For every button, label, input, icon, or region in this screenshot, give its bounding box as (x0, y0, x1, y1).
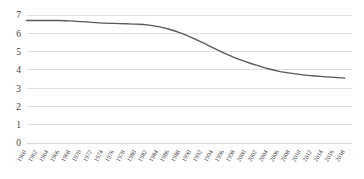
x-axis-tick-label: 1988 (169, 149, 181, 163)
x-axis-tick-label: 1982 (136, 149, 148, 163)
y-axis-tick-label: 5 (16, 47, 21, 57)
x-axis-tick-label: 2014 (312, 149, 324, 163)
x-axis-tick-label: 2018 (334, 149, 346, 163)
x-axis-tick-label: 1986 (158, 149, 170, 163)
x-axis-tick-label: 1976 (103, 149, 115, 163)
data-series-group (27, 20, 346, 78)
x-axis-tick-labels: 1960196219641966196819701972197419761978… (15, 149, 346, 163)
x-axis-tick-label: 1974 (92, 149, 104, 163)
x-axis-tick-label: 2006 (268, 149, 280, 163)
series-line (27, 20, 346, 78)
y-axis-tick-label: 1 (16, 120, 21, 130)
gridlines-group (27, 15, 353, 143)
y-axis-tick-label: 3 (16, 84, 21, 94)
x-axis-tick-label: 2000 (235, 149, 247, 163)
y-axis-tick-label: 0 (16, 138, 21, 148)
x-axis-tick-label: 2016 (323, 149, 335, 163)
x-axis-tick-label: 1964 (37, 149, 49, 163)
x-axis-tick-label: 1962 (26, 149, 38, 163)
y-axis-tick-label: 6 (16, 29, 21, 39)
x-axis-tick-label: 1968 (59, 149, 71, 163)
x-axis-tick-label: 1990 (180, 149, 192, 163)
x-axis-tick-label: 1980 (125, 149, 137, 163)
x-axis-tick-label: 2002 (246, 149, 258, 163)
x-axis-tick-label: 1994 (202, 149, 214, 163)
line-chart: 01234567 1960196219641966196819701972197… (0, 0, 364, 179)
chart-canvas: 01234567 1960196219641966196819701972197… (0, 0, 364, 179)
x-axis-tick-label: 1992 (191, 149, 203, 163)
x-axis-tick-label: 1970 (70, 149, 82, 163)
y-axis-tick-label: 4 (16, 65, 21, 75)
x-axis-tick-label: 2004 (257, 149, 269, 163)
y-axis-tick-label: 7 (16, 10, 21, 20)
x-axis-tick-label: 2010 (290, 149, 302, 163)
x-axis-tick-label: 2012 (301, 149, 313, 163)
x-axis-tick-label: 1978 (114, 149, 126, 163)
x-axis-tick-label: 1966 (48, 149, 60, 163)
y-axis-tick-label: 2 (16, 102, 21, 112)
x-axis-tick-label: 1960 (15, 149, 27, 163)
x-axis-tick-label: 1972 (81, 149, 93, 163)
y-axis-tick-labels: 01234567 (16, 10, 21, 148)
x-axis-tick-label: 2008 (279, 149, 291, 163)
x-axis-tick-label: 1984 (147, 149, 159, 163)
x-axis-tick-label: 1998 (224, 149, 236, 163)
x-axis-tick-label: 1996 (213, 149, 225, 163)
